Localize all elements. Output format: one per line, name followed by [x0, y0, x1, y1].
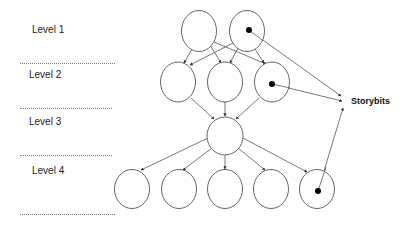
node-l2-1 — [161, 62, 196, 102]
node-l1-1 — [182, 11, 217, 52]
node-l4-4 — [254, 170, 289, 209]
node-l4-1 — [115, 170, 150, 209]
node-l2-2 — [208, 62, 243, 102]
hierarchy-diagram: Storybits — [0, 0, 409, 227]
storybit-dot-icon — [246, 27, 252, 33]
node-l4-2 — [162, 170, 197, 209]
storybit-dot-icon — [315, 188, 321, 194]
storybit-dot-icon — [269, 81, 275, 87]
nodes — [115, 11, 335, 209]
storybits-label: Storybits — [351, 96, 390, 106]
node-l4-3 — [208, 170, 243, 209]
edges — [141, 30, 343, 191]
node-l3-1 — [207, 117, 243, 155]
